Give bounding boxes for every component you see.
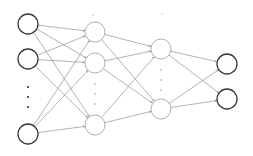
connection-edge <box>38 126 85 132</box>
connection-edge <box>102 40 155 102</box>
hidden-1-node <box>85 53 105 73</box>
connection-edge <box>37 29 87 58</box>
connection-edge <box>171 100 217 107</box>
connection-edge <box>105 51 151 61</box>
input-node <box>18 14 38 34</box>
ellipsis-dot <box>160 89 162 91</box>
ellipsis-dot <box>27 96 29 98</box>
ellipsis-dot <box>160 69 162 71</box>
ellipsis-dot <box>27 106 29 108</box>
input-node <box>18 49 38 69</box>
network-nodes <box>18 14 237 144</box>
ellipsis-dot <box>94 83 96 85</box>
hidden-2-node <box>151 99 171 119</box>
connection-edge <box>105 111 152 122</box>
connection-edge <box>103 69 153 104</box>
hidden-1-node <box>85 115 105 135</box>
connection-edge <box>171 51 217 62</box>
tick-marks <box>92 13 162 15</box>
connection-edge <box>38 60 85 63</box>
hidden-2-node <box>151 39 171 59</box>
output-node <box>217 54 237 74</box>
connection-edge <box>35 70 88 126</box>
connection-edge <box>37 36 85 56</box>
connection-edges <box>33 25 219 132</box>
output-node <box>217 89 237 109</box>
hidden-1-node <box>85 22 105 42</box>
connection-edge <box>34 32 90 116</box>
input-node <box>18 124 38 144</box>
connection-edge <box>102 57 155 118</box>
connection-edge <box>169 70 218 104</box>
ellipsis-dot <box>27 86 29 88</box>
tick-mark <box>161 13 162 14</box>
tick-mark <box>92 14 93 15</box>
ellipsis-dots <box>27 69 162 108</box>
ellipsis-dot <box>94 93 96 95</box>
ellipsis-dot <box>160 79 162 81</box>
neural-network-diagram <box>0 0 253 156</box>
connection-edge <box>38 25 85 31</box>
connection-edge <box>105 34 152 46</box>
ellipsis-dot <box>94 103 96 105</box>
